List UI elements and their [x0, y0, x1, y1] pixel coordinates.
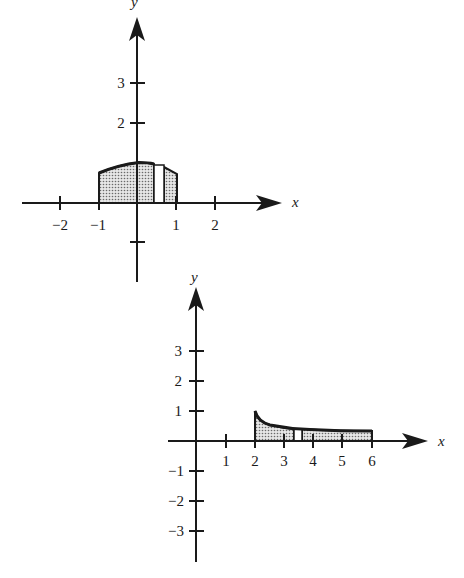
- x-axis-label: x: [437, 433, 445, 449]
- x-tick-label: −2: [52, 217, 68, 233]
- y-tick-label: −1: [168, 463, 184, 479]
- x-tick-label: 3: [280, 453, 288, 469]
- y-axis-label: y: [129, 0, 138, 10]
- x-axis-label: x: [291, 194, 299, 210]
- figure-canvas: −2 −1 1 2 2 3 x y: [0, 0, 464, 578]
- y-tick-label: 2: [175, 373, 183, 389]
- x-tick-label: 6: [368, 453, 376, 469]
- y-tick-label: −3: [168, 523, 184, 539]
- graph-bottom: 1 2 3 4 5 6 3 2 1 −1 −2 −3 x y: [168, 269, 445, 562]
- y-axis-label: y: [189, 269, 198, 285]
- y-tick-label: −2: [168, 493, 184, 509]
- y-tick-label: 1: [175, 403, 183, 419]
- x-tick-label: 1: [222, 453, 230, 469]
- y-tick-label: 3: [117, 75, 125, 91]
- y-tick-label: 3: [175, 343, 183, 359]
- x-tick-label: 2: [211, 217, 219, 233]
- x-tick-label: 1: [172, 217, 180, 233]
- y-tick-label: 2: [117, 115, 125, 131]
- x-tick-label: −1: [90, 217, 106, 233]
- graph-top: −2 −1 1 2 2 3 x y: [22, 0, 299, 282]
- unshaded-strip-top: [154, 165, 164, 203]
- x-tick-label: 2: [251, 453, 259, 469]
- x-tick-label: 4: [309, 453, 317, 469]
- x-tick-label: 5: [338, 453, 346, 469]
- unshaded-strip-bottom: [294, 429, 302, 441]
